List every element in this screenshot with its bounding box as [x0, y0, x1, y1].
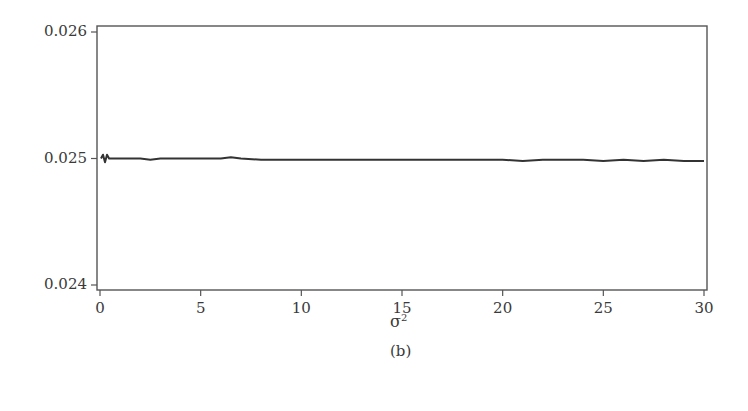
x-axis-label: σ2: [390, 312, 407, 331]
x-tick-label: 25: [583, 299, 623, 317]
x-tick-label: 5: [181, 299, 221, 317]
figure-caption: (b): [390, 342, 411, 360]
x-axis-label-superscript: 2: [401, 312, 407, 323]
line-chart: [0, 0, 748, 411]
x-tick-label: 0: [80, 299, 120, 317]
y-tick-label: 0.025: [7, 149, 87, 167]
x-axis-label-base: σ: [390, 312, 401, 331]
data-series: [101, 155, 704, 163]
x-tick-label: 20: [483, 299, 523, 317]
x-tick-label: 10: [281, 299, 321, 317]
y-tick-label: 0.024: [7, 275, 87, 293]
axis-ticks: [91, 32, 704, 296]
y-tick-label: 0.026: [7, 22, 87, 40]
x-tick-label: 30: [684, 299, 724, 317]
series-line: [101, 155, 704, 163]
